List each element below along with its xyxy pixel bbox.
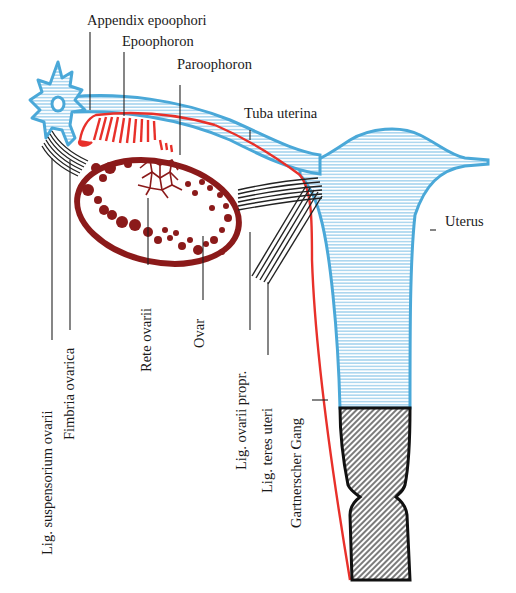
label-lig-suspensorium-ovarii: Lig. suspensorium ovarii bbox=[40, 410, 55, 555]
anatomy-diagram bbox=[0, 0, 516, 593]
label-lig-teres-uteri: Lig. teres uteri bbox=[260, 408, 275, 493]
label-ovar: Ovar bbox=[192, 319, 207, 348]
label-rete-ovarii: Rete ovarii bbox=[139, 308, 154, 372]
cervix-vagina-shape bbox=[340, 408, 410, 580]
label-lig-ovarii-propr: Lig. ovarii propr. bbox=[234, 371, 249, 470]
label-uterus: Uterus bbox=[445, 214, 484, 229]
label-paroophoron: Paroophoron bbox=[177, 57, 252, 72]
uterus-shape bbox=[300, 129, 488, 408]
label-epoophoron: Epoophoron bbox=[122, 34, 194, 49]
label-tuba-uterina: Tuba uterina bbox=[244, 106, 317, 121]
epoophoron-shape bbox=[79, 113, 215, 152]
fimbria-shape bbox=[30, 62, 85, 145]
label-gartnerscher-gang: Gartnerscher Gang bbox=[289, 418, 304, 528]
label-fimbria-ovarica: Fimbria ovarica bbox=[62, 348, 77, 440]
label-appendix-epoophori: Appendix epoophori bbox=[87, 13, 207, 28]
ovary-shape bbox=[67, 146, 248, 278]
